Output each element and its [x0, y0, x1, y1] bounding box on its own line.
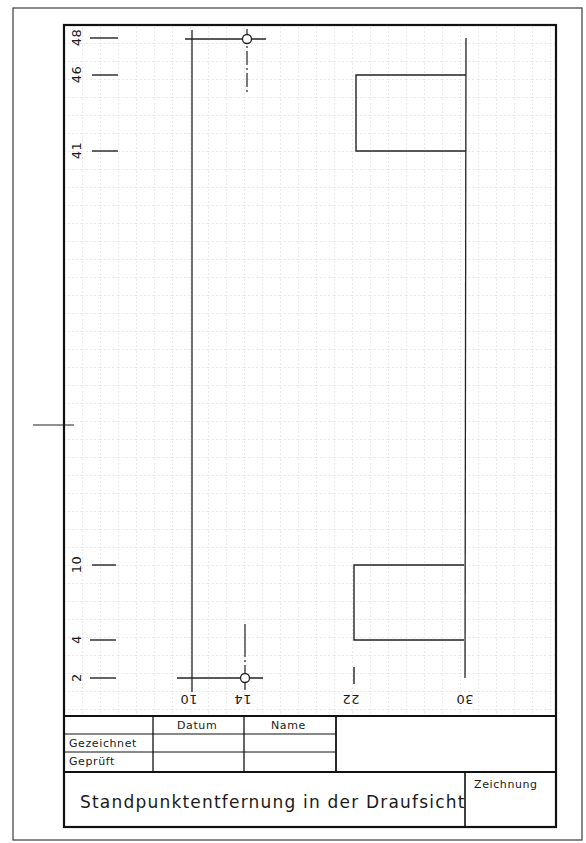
y-label-10: 10: [69, 556, 84, 574]
y-label-46: 46: [69, 66, 84, 84]
row-gezeichnet: Gezeichnet: [69, 737, 137, 750]
x-label-14: 14: [234, 692, 252, 707]
x-label-30: 30: [456, 692, 474, 707]
y-label-2: 2: [69, 673, 84, 682]
x-label-22: 22: [342, 692, 360, 707]
grid-area: [64, 25, 556, 716]
row-geprueft: Geprüft: [69, 755, 115, 768]
standpoint-top-circle: [243, 35, 252, 44]
x-label-10: 10: [180, 692, 198, 707]
header-name: Name: [271, 719, 306, 732]
drawing-title: Standpunktentfernung in der Draufsicht: [80, 792, 466, 812]
technical-drawing-sheet: [0, 0, 586, 843]
zeichnung-label: Zeichnung: [474, 778, 538, 791]
y-label-48: 48: [69, 29, 84, 47]
header-datum: Datum: [177, 719, 217, 732]
y-label-4: 4: [69, 635, 84, 644]
standpoint-bottom-circle: [241, 674, 250, 683]
y-label-41: 41: [69, 142, 84, 160]
